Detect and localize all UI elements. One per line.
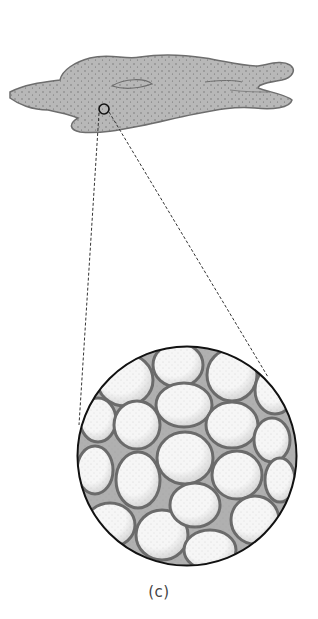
figure-caption: (c)	[0, 583, 318, 601]
illustration	[0, 0, 318, 619]
tissue-mass	[10, 55, 293, 132]
magnified-view	[70, 340, 310, 580]
